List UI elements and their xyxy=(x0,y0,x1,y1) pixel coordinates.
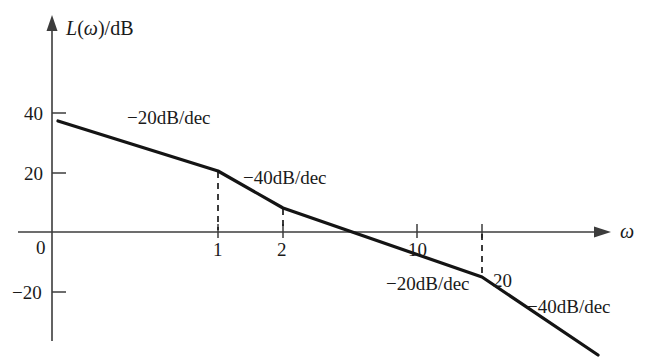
y-axis-label-unit: /dB xyxy=(105,17,134,39)
y-tick-label-40: 40 xyxy=(24,104,43,123)
y-tick-label-0: 0 xyxy=(36,238,46,257)
y-axis-label-paren-open: ( xyxy=(77,17,84,39)
x-axis-arrow-icon xyxy=(594,227,611,238)
x-tick-label-1: 1 xyxy=(213,240,223,259)
y-axis-label: L(ω)/dB xyxy=(66,18,134,38)
y-tick-label-20: 20 xyxy=(24,164,43,183)
x-tick-label-10: 10 xyxy=(408,240,427,259)
slope-label-segment-3: −20dB/dec xyxy=(386,274,470,293)
slope-label-segment-1: −20dB/dec xyxy=(127,108,211,127)
y-axis-label-paren-close: ) xyxy=(98,17,105,39)
y-tick-label-minus20: −20 xyxy=(12,283,42,302)
y-axis-label-omega: ω xyxy=(84,17,98,39)
bode-plot-figure: L(ω)/dB ω 40 20 0 −20 1 2 10 20 −20dB/de… xyxy=(0,0,645,362)
y-axis-arrow-icon xyxy=(47,15,58,31)
x-axis-label: ω xyxy=(620,221,634,241)
slope-label-segment-2: −40dB/dec xyxy=(243,168,327,187)
magnitude-curve xyxy=(58,121,598,355)
x-tick-label-20: 20 xyxy=(493,271,512,290)
slope-label-segment-4: −40dB/dec xyxy=(527,297,611,316)
y-axis-label-symbol: L xyxy=(66,17,77,39)
x-tick-label-2: 2 xyxy=(277,240,287,259)
